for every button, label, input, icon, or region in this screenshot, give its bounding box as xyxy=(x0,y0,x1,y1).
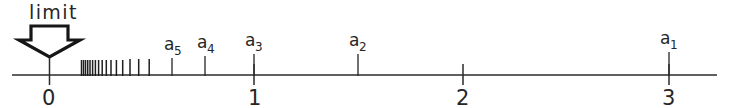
limit-down-block-arrow-icon xyxy=(19,26,80,57)
sequence-label-a1: a 1 xyxy=(660,28,678,52)
limit-label: limit xyxy=(29,1,78,23)
sequence-label-a1-subscript: 1 xyxy=(670,38,678,52)
sequence-label-a4-base: a xyxy=(197,32,207,52)
sequence-label-a3-subscript: 3 xyxy=(255,40,263,54)
sequence-label-a5-subscript: 5 xyxy=(174,44,182,58)
axis-number-3: 3 xyxy=(662,86,675,108)
sequence-label-a2: a 2 xyxy=(349,30,367,54)
sequence-label-a5: a 5 xyxy=(164,34,182,58)
sequence-label-a2-base: a xyxy=(349,30,359,50)
sequence-label-a1-base: a xyxy=(660,28,670,48)
number-line-limit-figure: limit a 5 a 4 a 3 a 2 a 1 0 1 2 3 xyxy=(0,0,734,108)
sequence-label-a4: a 4 xyxy=(197,32,215,56)
axis-number-0: 0 xyxy=(42,86,55,108)
sequence-label-a3: a 3 xyxy=(245,30,263,54)
dense-tick-cluster xyxy=(82,59,150,76)
sequence-label-a2-subscript: 2 xyxy=(359,40,367,54)
sequence-label-a4-subscript: 4 xyxy=(207,42,215,56)
axis-number-2: 2 xyxy=(456,86,469,108)
sequence-label-a3-base: a xyxy=(245,30,255,50)
axis-number-1: 1 xyxy=(248,86,261,108)
sequence-label-a5-base: a xyxy=(164,34,174,54)
